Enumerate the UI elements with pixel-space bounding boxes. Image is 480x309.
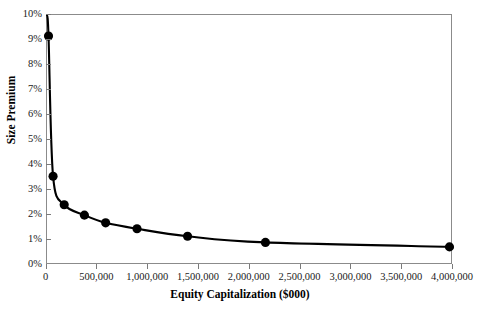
y-axis-tick-mark <box>46 114 51 115</box>
x-axis-tick-label: 0 <box>43 271 48 282</box>
x-axis-tick-label: 3,000,000 <box>329 271 371 282</box>
y-axis-tick-label: 1% <box>2 234 42 245</box>
x-axis-tick-label: 1,500,000 <box>177 271 219 282</box>
series-markers-size-premium <box>43 32 453 252</box>
y-axis-tick-label: 9% <box>2 34 42 45</box>
y-axis-tick-mark <box>46 164 51 165</box>
y-axis-tick-label: 2% <box>2 209 42 220</box>
y-axis-tick-label: 0% <box>2 259 42 270</box>
y-axis-tick-label: 3% <box>2 184 42 195</box>
x-axis-tick-label: 4,000,000 <box>431 271 473 282</box>
x-axis-tick-mark <box>96 264 97 269</box>
data-point-marker <box>260 238 269 247</box>
x-axis-tick-label: 2,500,000 <box>279 271 321 282</box>
y-axis-tick-mark <box>46 14 51 15</box>
x-axis-tick-mark <box>46 264 47 269</box>
size-premium-chart: 0%1%2%3%4%5%6%7%8%9%10% 0500,0001,000,00… <box>0 0 480 309</box>
data-point-marker <box>444 242 453 251</box>
y-axis-title: Size Premium <box>5 55 17 165</box>
x-axis-tick-mark <box>350 264 351 269</box>
data-point-marker <box>101 218 110 227</box>
y-axis-tick-mark <box>46 39 51 40</box>
data-point-marker <box>182 232 191 241</box>
x-axis-tick-mark <box>452 264 453 269</box>
x-axis-title: Equity Capitalization ($000) <box>0 288 480 300</box>
x-axis-tick-mark <box>401 264 402 269</box>
plot-area <box>46 14 453 264</box>
series-line-size-premium <box>47 15 449 247</box>
y-axis-tick-mark <box>46 214 51 215</box>
x-axis-tick-label: 1,000,000 <box>126 271 168 282</box>
data-point-marker <box>48 172 57 181</box>
y-axis-tick-mark <box>46 64 51 65</box>
x-axis-tick-mark <box>198 264 199 269</box>
data-point-marker <box>59 200 68 209</box>
x-axis-tick-label: 2,000,000 <box>228 271 270 282</box>
data-point-marker <box>79 211 88 220</box>
x-axis-tick-label: 3,500,000 <box>380 271 422 282</box>
y-axis-tick-label: 10% <box>2 9 42 20</box>
x-axis-tick-mark <box>249 264 250 269</box>
data-point-marker <box>132 224 141 233</box>
plot-svg <box>47 15 452 263</box>
x-axis-tick-mark <box>300 264 301 269</box>
y-axis-tick-mark <box>46 139 51 140</box>
x-axis-tick-label: 500,000 <box>79 271 113 282</box>
y-axis-tick-mark <box>46 189 51 190</box>
y-axis-tick-mark <box>46 239 51 240</box>
y-axis-tick-mark <box>46 89 51 90</box>
x-axis-tick-mark <box>147 264 148 269</box>
